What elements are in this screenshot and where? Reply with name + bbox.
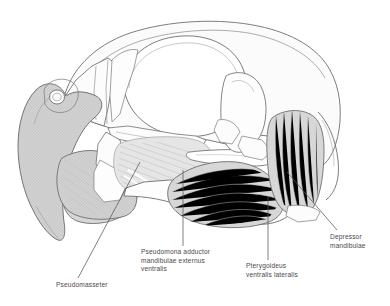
anatomical-diagram: Pseudomasseter Pseudomona adductor mandi… <box>0 0 390 306</box>
label-pseudomasseter: Pseudomasseter <box>56 281 108 290</box>
retroarticular-process <box>286 205 320 222</box>
label-adductor-mandibulae-externus-ventralis: Pseudomona adductor mandibulae externus … <box>141 248 210 274</box>
nostril-inner <box>53 93 61 101</box>
skull-outline-group <box>18 21 340 278</box>
label-pterygoideus-ventralis-lateralis: Pterygoideus ventralis lateralis <box>246 262 298 279</box>
label-depressor-mandibulae: Depressor mandibulae <box>330 233 366 250</box>
